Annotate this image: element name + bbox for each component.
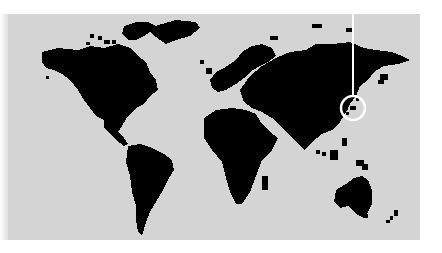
world-map (0, 0, 442, 253)
south-america (126, 144, 174, 236)
north-america (42, 44, 158, 132)
australia (334, 176, 372, 218)
